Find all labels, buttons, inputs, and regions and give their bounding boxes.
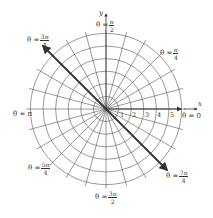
angle-label-3pi-over-4: θ = 3π4 (27, 33, 49, 48)
fraction-numerator: 7π (179, 169, 188, 177)
angle-label-0: θ = 0 (182, 113, 201, 120)
radial-line-30deg (106, 69, 175, 109)
radial-line-60deg (106, 40, 146, 109)
tick-label-5: 5 (170, 112, 174, 119)
fraction-numerator: π (109, 18, 114, 26)
tick-label-2: 2 (132, 112, 136, 119)
tick-label-3: 3 (145, 112, 149, 119)
radial-line-240deg (66, 109, 106, 178)
tick-label-1: 1 (120, 112, 124, 119)
polar-diagram: y x 1 2 3 4 5 θ = π2 θ = π4 θ = 3π4 θ = … (0, 0, 213, 218)
radial-line-45deg (106, 53, 162, 109)
fraction-denominator: 4 (44, 169, 48, 176)
fraction-denominator: 4 (174, 54, 178, 61)
angle-label-prefix: θ = (28, 165, 40, 172)
angle-label-pi-over-2: θ = π2 (96, 18, 114, 33)
fraction-numerator: 3π (40, 33, 49, 41)
radial-line-195deg (29, 109, 106, 130)
angle-label-5pi-over-4: θ = 5π4 (28, 161, 50, 176)
angle-label-7pi-over-4: θ = 7π4 (166, 169, 188, 184)
radial-line-15deg (106, 88, 183, 109)
angle-label-prefix: θ = (166, 173, 178, 180)
angle-label-pi: θ = π (13, 111, 32, 118)
angle-label-3pi-over-2: θ = 3π2 (95, 190, 117, 205)
angle-label-prefix: θ = (160, 50, 172, 57)
ray-3pi-over-4 (43, 46, 106, 109)
radial-line-255deg (85, 109, 106, 186)
angle-label-prefix: θ = (27, 37, 39, 44)
tick-label-4: 4 (157, 112, 161, 119)
y-axis-label: y (99, 10, 103, 17)
fraction-denominator: 2 (110, 26, 114, 33)
radial-line-225deg (50, 109, 106, 165)
radial-line-210deg (37, 109, 106, 149)
angle-label-prefix: θ = (96, 22, 108, 29)
angle-label-prefix: θ = (95, 194, 107, 201)
fraction-denominator: 2 (111, 198, 115, 205)
fraction-denominator: 4 (43, 41, 47, 48)
fraction-denominator: 4 (182, 177, 186, 184)
fraction-numerator: 5π (41, 161, 50, 169)
radial-line-75deg (106, 32, 127, 109)
angle-label-pi-over-4: θ = π4 (160, 46, 178, 61)
x-axis-label: x (198, 101, 202, 108)
fraction-numerator: π (173, 46, 178, 54)
fraction-numerator: 3π (108, 190, 117, 198)
